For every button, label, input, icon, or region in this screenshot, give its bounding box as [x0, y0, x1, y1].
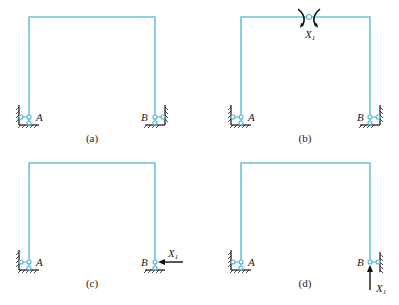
vertical-force-arrow-icon [367, 265, 373, 290]
label-b: B [141, 111, 148, 123]
panel-c: X1 A B (c) [16, 163, 183, 290]
panel-d: X1 A B (d) [228, 163, 386, 296]
label-a: A [247, 111, 255, 123]
caption-c: (c) [86, 277, 99, 290]
frame-member [29, 163, 155, 262]
frame-diagrams: A B (a) X1 A B (b) X1 A B (c) [0, 0, 399, 305]
label-a: A [247, 256, 255, 268]
caption-d: (d) [299, 277, 312, 290]
horizontal-force-arrow-icon [158, 259, 183, 265]
panel-a: A B (a) [16, 17, 168, 145]
label-x1: X1 [375, 282, 386, 296]
label-a: A [35, 256, 43, 268]
label-b: B [357, 111, 364, 123]
caption-b: (b) [299, 132, 312, 145]
label-b: B [357, 256, 364, 268]
label-a: A [35, 111, 43, 123]
label-b: B [141, 256, 148, 268]
hinge-icon [307, 15, 312, 20]
panel-b: X1 A B (b) [228, 9, 383, 145]
label-x1: X1 [304, 28, 315, 42]
frame-member [29, 17, 155, 117]
label-x1: X1 [167, 247, 178, 261]
frame-member [241, 163, 370, 262]
caption-a: (a) [86, 132, 99, 145]
